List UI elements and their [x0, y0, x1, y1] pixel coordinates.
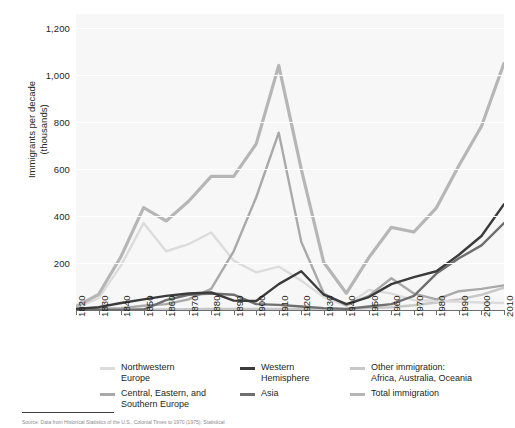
legend-item[interactable]: Asia	[240, 388, 350, 399]
legend-item[interactable]: Central, Eastern, and Southern Europe	[100, 388, 240, 409]
gridline	[76, 122, 504, 123]
series-line	[76, 133, 504, 310]
legend-item[interactable]: Total immigration	[350, 388, 515, 399]
legend-label: Other immigration: Africa, Australia, Oc…	[371, 362, 472, 383]
x-axis-tick-label: 1860	[166, 295, 177, 317]
x-axis-tick-label: 1990	[459, 295, 470, 317]
x-axis-tick-label: 1870	[189, 295, 200, 317]
x-axis-tick-label: 1950	[369, 295, 380, 317]
y-axis-tick-label: 800	[8, 117, 70, 128]
y-axis-tick-label: 200	[8, 258, 70, 269]
source-note: Source: Data from Historical Statistics …	[22, 419, 512, 426]
gridline	[76, 263, 504, 264]
legend-column: Other immigration: Africa, Australia, Oc…	[350, 362, 515, 404]
series-line	[76, 204, 504, 309]
plot-area	[76, 14, 504, 310]
x-axis-tick-label: 1960	[391, 295, 402, 317]
x-axis-tick-label: 1850	[144, 295, 155, 317]
legend-item[interactable]: Other immigration: Africa, Australia, Oc…	[350, 362, 515, 383]
x-axis-tick-label: 1920	[301, 295, 312, 317]
x-axis-tick-label: 1970	[414, 295, 425, 317]
gridline	[76, 216, 504, 217]
x-axis-tick-label: 1910	[279, 295, 290, 317]
x-axis-tick-label: 1830	[99, 295, 110, 317]
legend-item[interactable]: Northwestern Europe	[100, 362, 240, 383]
legend-label: Western Hemisphere	[261, 362, 310, 383]
legend-swatch-icon	[350, 393, 365, 396]
x-axis-tick-label: 1880	[211, 295, 222, 317]
legend-label: Central, Eastern, and Southern Europe	[121, 388, 206, 409]
immigration-line-chart-figure: Immigrants per decade (thousands) 200400…	[0, 0, 515, 428]
chart-legend: Northwestern EuropeCentral, Eastern, and…	[100, 362, 500, 408]
x-axis-tick-label: 2000	[481, 295, 492, 317]
legend-column: Northwestern EuropeCentral, Eastern, and…	[100, 362, 240, 414]
legend-swatch-icon	[100, 393, 115, 396]
source-divider	[22, 412, 114, 413]
x-axis-tick-label: 1840	[121, 295, 132, 317]
y-axis-ticks: 2004006008001,0001,200	[0, 14, 70, 310]
legend-label: Northwestern Europe	[121, 362, 175, 383]
gridline	[76, 75, 504, 76]
x-axis-tick-label: 1930	[324, 295, 335, 317]
legend-label: Total immigration	[371, 388, 439, 399]
y-axis-tick-label: 1,000	[8, 70, 70, 81]
x-axis-tick-label: 1940	[346, 295, 357, 317]
legend-item[interactable]: Western Hemisphere	[240, 362, 350, 383]
legend-swatch-icon	[240, 367, 255, 370]
y-axis-tick-label: 600	[8, 164, 70, 175]
legend-swatch-icon	[240, 393, 255, 396]
x-axis-tick-label: 1890	[234, 295, 245, 317]
legend-swatch-icon	[100, 367, 115, 370]
x-axis-tick-label: 1980	[436, 295, 447, 317]
legend-label: Asia	[261, 388, 279, 399]
legend-swatch-icon	[350, 367, 365, 370]
y-axis-tick-label: 400	[8, 211, 70, 222]
series-lines	[76, 14, 504, 310]
gridline	[76, 169, 504, 170]
x-axis-tick-label: 1820	[76, 295, 87, 317]
y-axis-tick-label: 1,200	[8, 23, 70, 34]
x-axis-ticks: 1820183018401850186018701880189019001910…	[76, 310, 504, 358]
legend-column: Western HemisphereAsia	[240, 362, 350, 404]
x-axis-tick-label: 1900	[256, 295, 267, 317]
x-axis-tick-label: 2010	[504, 295, 515, 317]
gridline	[76, 28, 504, 29]
